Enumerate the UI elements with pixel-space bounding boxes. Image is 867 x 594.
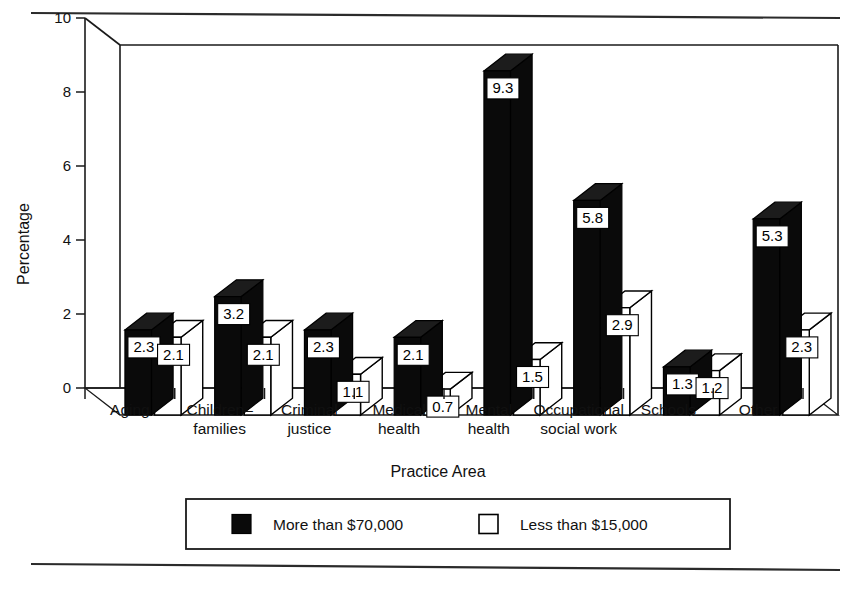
- x-axis-title: Practice Area: [390, 463, 485, 480]
- y-tick-label: 0: [63, 379, 71, 396]
- category-label: Medicalhealth: [372, 401, 425, 437]
- bar-value-text: 2.9: [612, 316, 633, 333]
- bar-value-label: 2.3: [786, 337, 818, 358]
- bar-value-text: 1.3: [672, 375, 693, 392]
- bar-value-label: 9.3: [487, 78, 519, 99]
- y-axis-title: Percentage: [15, 203, 32, 285]
- bar-value-label: 2.9: [606, 315, 638, 336]
- y-axis: 0246810: [54, 9, 85, 396]
- bar-value-label: 2.3: [307, 337, 339, 358]
- top-divider-rule: [31, 13, 840, 18]
- bar-value-label: 1.1: [337, 381, 369, 402]
- y-tick-label: 6: [63, 157, 71, 174]
- bar-value-text: 5.3: [762, 227, 783, 244]
- bar-value-label: 2.1: [397, 344, 429, 365]
- bar-value-text: 2.3: [791, 338, 812, 355]
- bar-value-label: 1.3: [666, 374, 698, 395]
- y-tick-label: 10: [54, 9, 71, 26]
- bar-value-text: 1.2: [702, 379, 723, 396]
- bar-value-text: 0.7: [432, 398, 453, 415]
- bar-value-text: 9.3: [493, 79, 514, 96]
- bar-chart: 0246810 Percentage 2.32.13.22.12.31.12.1…: [0, 0, 867, 594]
- bar-value-label: 1.5: [517, 367, 549, 388]
- bar-value-label: 5.8: [577, 207, 609, 228]
- bar-high-income: [484, 54, 532, 415]
- bar-value-text: 2.1: [253, 346, 274, 363]
- bar-value-label: 2.1: [247, 344, 279, 365]
- legend-label: More than $70,000: [273, 516, 404, 533]
- y-tick-label: 8: [63, 83, 71, 100]
- category-label: Aging: [110, 401, 150, 418]
- bar-value-label: 5.3: [756, 226, 788, 247]
- legend-label: Less than $15,000: [520, 516, 648, 533]
- bar-value-text: 2.3: [313, 338, 334, 355]
- figure-container: 0246810 Percentage 2.32.13.22.12.31.12.1…: [0, 0, 867, 594]
- bar-value-text: 1.1: [343, 383, 364, 400]
- bar-value-text: 2.1: [163, 346, 184, 363]
- category-label: Children–families: [186, 401, 253, 437]
- category-label: Occupationalsocial work: [533, 401, 623, 437]
- bar-value-text: 5.8: [582, 209, 603, 226]
- bar-value-label: 3.2: [218, 304, 250, 325]
- legend-swatch: [232, 515, 251, 534]
- bar-value-label: 2.1: [158, 344, 190, 365]
- bar-value-label: 0.7: [427, 396, 459, 417]
- y-tick-label: 4: [63, 231, 71, 248]
- y-tick-label: 2: [63, 305, 71, 322]
- bar-value-text: 2.1: [403, 346, 424, 363]
- bar-value-label: 2.3: [128, 337, 160, 358]
- legend-swatch: [479, 515, 498, 534]
- bar-value-text: 2.3: [134, 338, 155, 355]
- bars-layer: [125, 54, 831, 415]
- bar-value-label: 1.2: [696, 378, 728, 399]
- category-label: Schools: [641, 401, 696, 418]
- bar-value-text: 3.2: [223, 305, 244, 322]
- bar-value-text: 1.5: [522, 368, 543, 385]
- category-label: Criminaljustice: [281, 401, 338, 437]
- category-label: Mentalhealth: [466, 401, 513, 437]
- bottom-divider-rule: [31, 564, 840, 570]
- chart-legend: More than $70,000Less than $15,000: [186, 499, 730, 549]
- category-label: Other: [739, 401, 778, 418]
